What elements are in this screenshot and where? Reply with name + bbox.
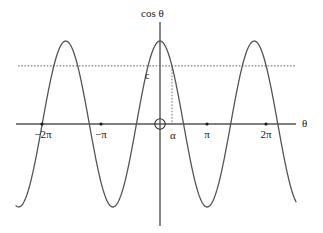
y-axis-label: cos θ <box>141 8 164 19</box>
tick-label-minus-pi: −π <box>90 129 112 140</box>
tick-label-minus-2pi: −2π <box>30 129 56 140</box>
tick-dot-minus-pi <box>99 122 102 125</box>
tick-dot-pi <box>205 122 208 125</box>
x-axis-label: θ <box>302 118 307 129</box>
tick-label-alpha: α <box>167 130 179 141</box>
tick-label-2pi: 2π <box>256 129 276 140</box>
tick-dot-minus-2pi <box>40 122 43 125</box>
plot-canvas <box>0 0 323 233</box>
cosine-graph-figure: cos θ θ −2π −π α π 2π c <box>0 0 323 233</box>
level-c-label: c <box>145 71 149 81</box>
tick-label-pi: π <box>201 129 213 140</box>
tick-dot-2pi <box>264 122 267 125</box>
